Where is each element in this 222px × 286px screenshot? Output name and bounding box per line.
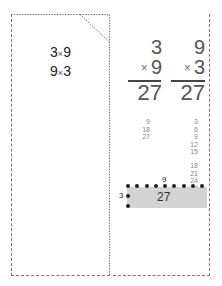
array-dot xyxy=(145,184,149,188)
times-sign: × xyxy=(184,61,191,75)
skip-count-value: 6 xyxy=(178,126,198,134)
skip-count-value: 27 xyxy=(130,133,150,141)
product: 27 xyxy=(167,82,205,104)
array-dot xyxy=(191,184,195,188)
vertical-problem-1: 3 ×9 xyxy=(127,37,162,78)
fact-factor: 3 xyxy=(63,63,71,79)
skip-count-value: 18 xyxy=(178,162,198,170)
skip-count-value: 9 xyxy=(178,133,198,141)
vertical-problem-2: 9 ×3 xyxy=(170,37,205,78)
multiplication-facts: 3×9 9×3 xyxy=(11,44,110,82)
array-dot xyxy=(126,204,130,208)
array-dot xyxy=(163,184,167,188)
columns-label: 9 xyxy=(162,175,166,184)
array-dot xyxy=(135,184,139,188)
skip-count-list-2: 3 6 9 12 15 18 21 24 27 xyxy=(178,118,198,192)
array-dot xyxy=(126,184,130,188)
array-dot xyxy=(126,194,130,198)
times-sign: × xyxy=(141,61,148,75)
fact-factor: 9 xyxy=(50,63,58,79)
skip-count-list-1: 9 18 27 xyxy=(130,118,150,141)
skip-count-value: 18 xyxy=(130,126,150,134)
fact-row: 3×9 xyxy=(11,44,110,63)
skip-count-value: 15 xyxy=(178,148,198,156)
fact-row: 9×3 xyxy=(11,63,110,82)
top-factor: 3 xyxy=(127,37,162,57)
operator-row: ×9 xyxy=(127,57,162,78)
skip-count-value: 24 xyxy=(178,177,198,185)
fact-factor: 3 xyxy=(50,44,58,60)
skip-count-value: 12 xyxy=(178,141,198,149)
bottom-factor: 3 xyxy=(194,56,205,78)
array-dot xyxy=(200,184,204,188)
rows-label: 3 xyxy=(119,191,123,200)
skip-count-value: 9 xyxy=(130,118,150,126)
array-dot xyxy=(172,184,176,188)
skip-count-value: 3 xyxy=(178,118,198,126)
skip-count-value: 21 xyxy=(178,170,198,178)
fact-factor: 9 xyxy=(63,44,71,60)
top-factor: 9 xyxy=(170,37,205,57)
array-dot xyxy=(182,184,186,188)
area-label: 27 xyxy=(157,190,170,204)
operator-row: ×3 xyxy=(170,57,205,78)
product: 27 xyxy=(124,82,162,104)
array-dot xyxy=(154,184,158,188)
bottom-factor: 9 xyxy=(151,56,162,78)
